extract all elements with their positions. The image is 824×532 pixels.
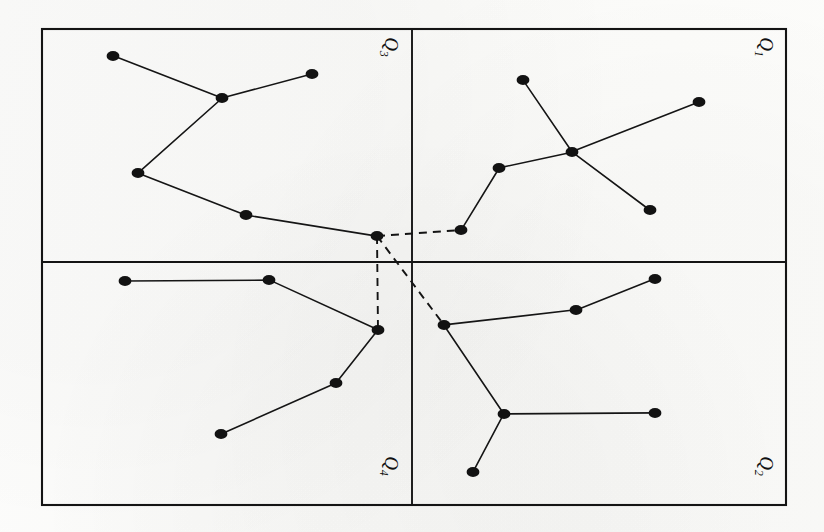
tree-edge — [523, 80, 572, 152]
quadrant-label-letter: Q — [381, 456, 402, 470]
tree-node — [570, 305, 583, 315]
tree-node — [649, 408, 662, 418]
quadrant-label-q4: Q4 — [376, 456, 402, 476]
tree-node — [107, 51, 120, 61]
tree-edge — [269, 280, 378, 330]
tree-edge — [336, 330, 378, 383]
tree-node — [215, 429, 228, 439]
tree-node — [263, 275, 276, 285]
quadrant-tree-diagram — [0, 0, 824, 532]
tree-edge — [444, 310, 576, 325]
tree-node — [371, 231, 384, 241]
tree-edge — [572, 102, 699, 152]
quadrant-label-letter: Q — [756, 37, 777, 51]
quadrant-label-letter: Q — [381, 37, 402, 51]
tree-edge — [113, 56, 222, 98]
cross-quadrant-dashed-edge — [377, 236, 378, 330]
cross-quadrant-dashed-edges — [377, 230, 461, 330]
tree-edge — [461, 168, 499, 230]
quadrant-label-q2: Q2 — [751, 456, 777, 476]
cross-quadrant-dashed-edge — [377, 236, 444, 325]
tree-node — [306, 69, 319, 79]
tree-node — [372, 325, 385, 335]
tree-edge — [499, 152, 572, 168]
tree-node — [498, 409, 511, 419]
frame-layer — [42, 29, 786, 505]
quadrant-label-subscript: 2 — [752, 470, 766, 476]
tree-edge — [138, 98, 222, 173]
figure-page: Q3Q1Q4Q2 — [0, 0, 824, 532]
tree-node — [693, 97, 706, 107]
tree-node — [330, 378, 343, 388]
quadrant-label-q1: Q1 — [751, 37, 777, 57]
tree-edge — [473, 414, 504, 472]
tree-edges — [113, 56, 699, 472]
tree-node — [566, 147, 579, 157]
tree-node — [438, 320, 451, 330]
quadrant-label-q3: Q3 — [376, 37, 402, 57]
tree-edge — [221, 383, 336, 434]
quadrant-label-subscript: 1 — [752, 51, 766, 57]
quadrant-label-subscript: 4 — [377, 470, 391, 476]
divider-layer — [42, 29, 786, 505]
tree-node — [240, 210, 253, 220]
tree-edge — [572, 152, 650, 210]
tree-edge — [125, 280, 269, 281]
tree-node — [216, 93, 229, 103]
quadrant-label-subscript: 3 — [377, 51, 391, 57]
tree-edge — [504, 413, 655, 414]
tree-edge — [246, 215, 377, 236]
tree-node — [119, 276, 132, 286]
tree-node — [644, 205, 657, 215]
tree-node — [649, 274, 662, 284]
quadrant-label-letter: Q — [756, 456, 777, 470]
outer-frame — [42, 29, 786, 505]
tree-node — [132, 168, 145, 178]
tree-node — [493, 163, 506, 173]
tree-edge — [444, 325, 504, 414]
tree-node — [517, 75, 530, 85]
cross-quadrant-dashed-edge — [377, 230, 461, 236]
tree-node — [467, 467, 480, 477]
tree-edge — [222, 74, 312, 98]
tree-node — [455, 225, 468, 235]
tree-edge — [138, 173, 246, 215]
tree-edge — [576, 279, 655, 310]
